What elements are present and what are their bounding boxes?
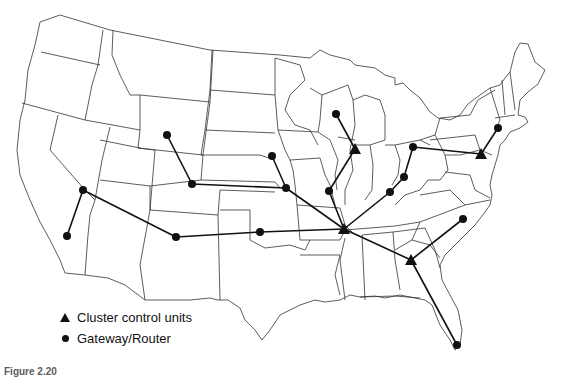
network-link (260, 229, 344, 232)
network-link (192, 184, 286, 188)
gateway-node (63, 232, 71, 240)
gateway-node (459, 215, 467, 223)
network-link (481, 128, 498, 154)
gateway-node (256, 228, 264, 236)
gateway-node (268, 152, 276, 160)
network-link (411, 260, 457, 345)
gateway-node (325, 187, 333, 195)
network-link (67, 190, 83, 236)
circle-icon (56, 335, 74, 342)
figure-caption: Figure 2.20 (4, 366, 57, 377)
cluster-control-nodes (338, 143, 487, 265)
legend-item-cluster-control: Cluster control units (56, 307, 192, 328)
gateway-node (172, 233, 180, 241)
gateway-node (163, 131, 171, 139)
gateway-node (386, 188, 394, 196)
gateway-node (282, 184, 290, 192)
legend: Cluster control units Gateway/Router (56, 307, 192, 349)
gateway-node (494, 124, 502, 132)
gateway-node (79, 186, 87, 194)
network-link (413, 147, 481, 154)
network-link (329, 149, 355, 191)
network-link (272, 156, 286, 188)
cluster-control-node (405, 254, 417, 265)
gateway-node (453, 341, 461, 349)
legend-item-gateway: Gateway/Router (56, 328, 192, 349)
network-link (404, 147, 413, 177)
legend-label: Cluster control units (77, 310, 192, 325)
gateway-node (409, 143, 417, 151)
network-link (83, 190, 176, 237)
network-link (336, 114, 355, 149)
gateway-node (188, 180, 196, 188)
gateway-node (332, 110, 340, 118)
triangle-icon (56, 313, 74, 322)
state-borders (17, 15, 545, 350)
gateway-node (400, 173, 408, 181)
legend-label: Gateway/Router (77, 331, 171, 346)
network-link (176, 232, 260, 237)
network-link (167, 135, 192, 184)
